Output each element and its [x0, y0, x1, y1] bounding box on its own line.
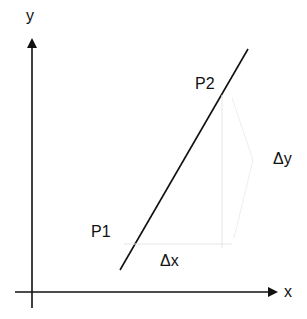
p1-label: P1: [91, 224, 111, 240]
y-axis-label: y: [26, 8, 34, 24]
slope-diagram: y x P1 P2 Δx Δy: [0, 0, 307, 319]
x-axis-label: x: [284, 284, 292, 300]
diagram-graphics: [0, 0, 307, 319]
delta-x-label: Δx: [160, 253, 179, 269]
delta-y-bracket: [232, 98, 253, 238]
slope-line: [120, 49, 248, 270]
p2-label: P2: [195, 76, 215, 92]
delta-y-label: Δy: [273, 151, 292, 167]
